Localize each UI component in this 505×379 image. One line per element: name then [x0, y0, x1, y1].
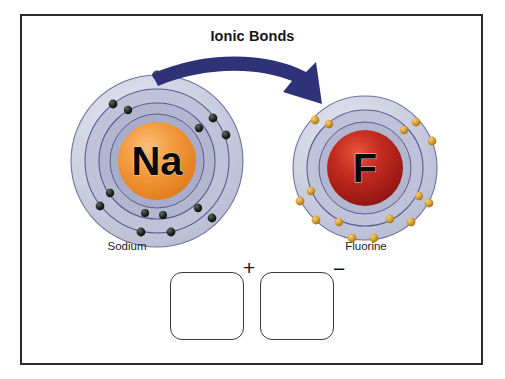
atoms-artwork: Na F	[0, 0, 505, 379]
atom-sodium: Na	[71, 70, 243, 247]
nucleus-symbol-na: Na	[131, 139, 183, 183]
atom-label-sodium: Sodium	[77, 240, 177, 252]
diagram-canvas: Ionic Bonds	[0, 0, 505, 379]
atom-fluorine: F	[293, 96, 437, 242]
electron-f-transferred	[311, 116, 320, 125]
charge-sign-positive: +	[243, 257, 255, 278]
atom-label-fluorine: Fluorine	[316, 240, 416, 252]
nucleus-symbol-f: F	[353, 146, 377, 190]
charge-sign-negative: −	[333, 258, 345, 279]
ion-box-fluoride-anion	[260, 272, 334, 340]
ion-box-sodium-cation	[170, 272, 244, 340]
